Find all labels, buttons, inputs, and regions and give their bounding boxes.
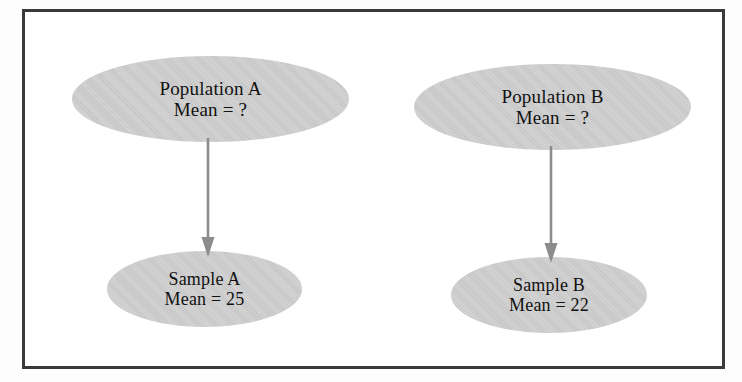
- node-population-a-label: Population A: [159, 78, 261, 99]
- node-population-a-mean: Mean = ?: [174, 99, 248, 120]
- node-sample-a-label: Sample A: [168, 269, 240, 289]
- node-sample-a-mean: Mean = 25: [165, 289, 245, 309]
- node-population-b-label: Population B: [501, 86, 603, 107]
- arrow-population-b-to-sample-b: [521, 146, 581, 264]
- node-sample-a[interactable]: Sample A Mean = 25: [107, 251, 302, 327]
- node-population-b-mean: Mean = ?: [516, 107, 590, 128]
- node-sample-b-mean: Mean = 22: [509, 295, 589, 315]
- arrow-population-a-to-sample-a: [178, 138, 238, 258]
- node-sample-b[interactable]: Sample B Mean = 22: [451, 257, 647, 333]
- node-sample-b-label: Sample B: [513, 275, 585, 295]
- diagram-canvas: Population A Mean = ? Population B Mean …: [0, 0, 742, 382]
- node-population-b[interactable]: Population B Mean = ?: [414, 64, 691, 150]
- node-population-a[interactable]: Population A Mean = ?: [72, 56, 349, 142]
